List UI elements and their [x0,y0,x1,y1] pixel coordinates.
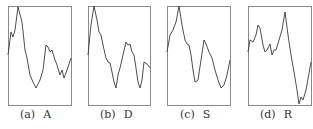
caption-c-name: S [203,108,211,121]
panel-d [248,7,312,106]
panel-d-frame [249,7,312,106]
caption-b: (b)D [100,108,132,121]
caption-d: (d)R [260,108,292,121]
caption-d-name: R [284,108,292,121]
panel-a-curve [8,7,71,88]
caption-c: (c)S [180,108,210,121]
panel-a [8,7,72,106]
panel-c-frame [168,7,231,106]
panel-c [167,6,231,106]
panel-b-curve [88,6,150,88]
panel-d-curve [248,12,311,104]
panel-c-curve [167,6,230,88]
caption-a: (a)A [20,108,51,121]
caption-a-label: (a) [20,108,35,121]
caption-b-name: D [124,108,133,121]
caption-b-label: (b) [100,108,116,121]
panel-b [88,6,151,106]
caption-d-label: (d) [260,108,276,121]
panel-b-frame [89,7,151,106]
caption-a-name: A [43,108,51,121]
panel-a-frame [9,7,72,106]
caption-c-label: (c) [180,108,195,121]
